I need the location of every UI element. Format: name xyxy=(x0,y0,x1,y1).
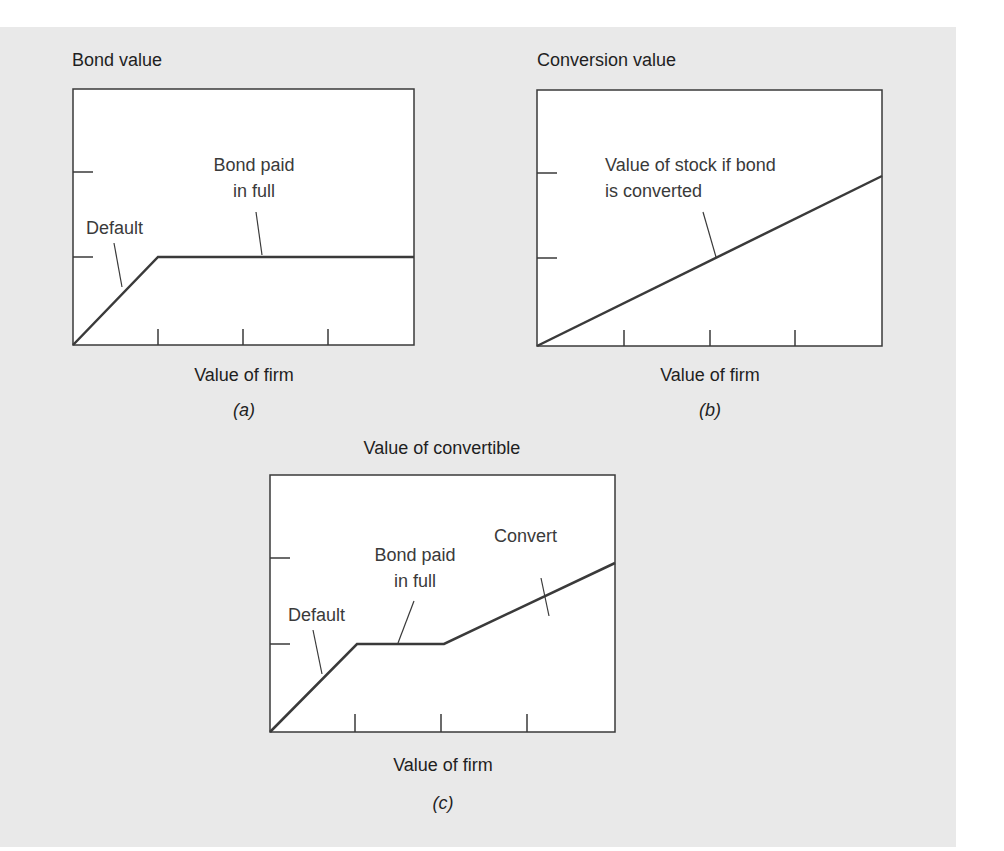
panel-b-xlabel: Value of firm xyxy=(536,365,884,386)
panel-b-plot-area xyxy=(537,90,882,346)
panel-c-caption: (c) xyxy=(269,793,617,814)
panel-c-ylabel: Value of convertible xyxy=(270,438,614,459)
panel-b-ylabel: Conversion value xyxy=(537,50,676,71)
panel-c-paid-label-line2: in full xyxy=(360,568,470,594)
panel-c-default-label: Default xyxy=(288,602,345,628)
panel-a-default-label: Default xyxy=(86,215,166,241)
panel-c-convert-label: Convert xyxy=(494,523,557,549)
panel-b-stock-label-line1: Value of stock if bond xyxy=(605,152,776,178)
panel-a-ylabel: Bond value xyxy=(72,50,162,71)
panel-a-caption: (a) xyxy=(72,400,416,421)
panel-b-caption: (b) xyxy=(536,400,884,421)
panel-c-paid-label-line1: Bond paid xyxy=(360,542,470,568)
panel-c-xlabel: Value of firm xyxy=(269,755,617,776)
panel-b-chart xyxy=(536,89,884,349)
panel-a-xlabel: Value of firm xyxy=(72,365,416,386)
panel-b-stock-label-line2: is converted xyxy=(605,178,702,204)
panel-a-paid-label-line2: in full xyxy=(194,178,314,204)
panel-a-paid-label-line1: Bond paid xyxy=(194,152,314,178)
